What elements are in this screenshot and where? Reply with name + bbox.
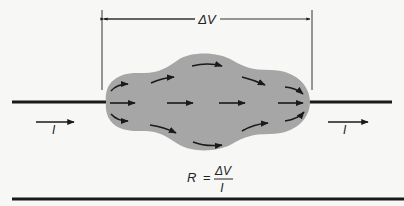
formula-numerator: ΔV [214,164,232,178]
formula-lhs: R [187,170,196,185]
formula-equals: = [203,170,211,185]
resistor-body [106,54,310,151]
resistor-diagram: ΔV I I R = ΔV I [0,0,404,206]
resistance-formula: R = ΔV I [187,164,233,195]
formula-denominator: I [220,181,224,195]
voltage-label: ΔV [197,12,217,27]
current-label-right: I [343,123,347,137]
current-label-left: I [52,123,56,137]
